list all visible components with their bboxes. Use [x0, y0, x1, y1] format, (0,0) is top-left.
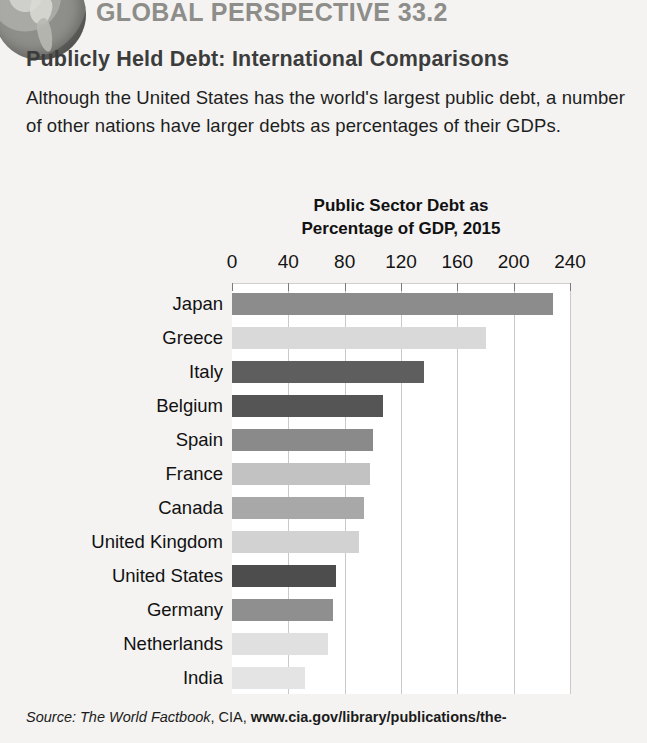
chart-title-line-1: Public Sector Debt as [232, 195, 570, 218]
category-label: United States [112, 565, 232, 587]
bar-series: JapanGreeceItalyBelgiumSpainFranceCanada… [232, 284, 570, 694]
bar [232, 531, 359, 553]
category-label: France [165, 463, 232, 485]
bar [232, 667, 305, 689]
bar [232, 497, 364, 519]
x-tick-label: 240 [554, 251, 586, 273]
category-label: Germany [147, 599, 232, 621]
bar-row: Netherlands [232, 627, 328, 661]
category-label: Canada [158, 497, 232, 519]
bar [232, 327, 486, 349]
bar [232, 633, 328, 655]
x-tick-label: 0 [227, 251, 238, 273]
category-label: Netherlands [123, 633, 232, 655]
bar [232, 395, 383, 417]
category-label: Belgium [156, 395, 232, 417]
bar [232, 293, 553, 315]
source-publication: The World Factbook [80, 709, 211, 725]
bar-row: Italy [232, 355, 424, 389]
chart-title: Public Sector Debt as Percentage of GDP,… [232, 195, 570, 241]
bar-row: India [232, 661, 305, 695]
source-prefix: Source: [26, 709, 80, 725]
x-tick-mark [570, 283, 571, 291]
source-note: Source: The World Factbook, CIA, www.cia… [26, 709, 507, 725]
category-label: United Kingdom [91, 531, 232, 553]
bar-row: France [232, 457, 370, 491]
bar [232, 565, 336, 587]
bar-row: Canada [232, 491, 364, 525]
bar [232, 429, 373, 451]
chart-figure: Public Sector Debt as Percentage of GDP,… [0, 195, 647, 700]
x-tick-label: 160 [441, 251, 473, 273]
x-axis-tick-labels: 04080120160200240 [0, 251, 647, 275]
source-url: www.cia.gov/library/publications/the- [251, 709, 507, 725]
bar [232, 361, 424, 383]
chart-title-line-2: Percentage of GDP, 2015 [232, 218, 570, 241]
bar-row: Greece [232, 321, 486, 355]
bar-row: Germany [232, 593, 333, 627]
category-label: India [183, 667, 232, 689]
category-label: Greece [162, 327, 232, 349]
bar-row: Belgium [232, 389, 383, 423]
x-tick-label: 200 [498, 251, 530, 273]
page-title: Publicly Held Debt: International Compar… [26, 47, 509, 72]
bar [232, 463, 370, 485]
intro-paragraph: Although the United States has the world… [26, 84, 626, 140]
bar [232, 599, 333, 621]
category-label: Spain [176, 429, 232, 451]
source-middle: , CIA, [211, 709, 251, 725]
category-label: Japan [173, 293, 232, 315]
bar-row: Japan [232, 287, 553, 321]
global-perspective-eyebrow: GLOBAL PERSPECTIVE 33.2 [96, 0, 448, 27]
x-tick-label: 80 [334, 251, 355, 273]
bar-row: Spain [232, 423, 373, 457]
category-label: Italy [189, 361, 232, 383]
gridline [570, 284, 571, 694]
bar-row: United Kingdom [232, 525, 359, 559]
plot-area: JapanGreeceItalyBelgiumSpainFranceCanada… [232, 283, 570, 694]
x-tick-label: 120 [385, 251, 417, 273]
bar-row: United States [232, 559, 336, 593]
x-tick-label: 40 [278, 251, 299, 273]
